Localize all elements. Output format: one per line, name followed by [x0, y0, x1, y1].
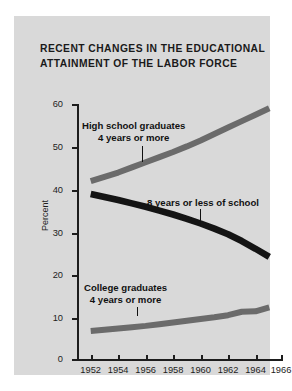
x-tick-label-1952: 1952	[80, 365, 101, 375]
y-axis-title: Percent	[40, 200, 50, 231]
annotation-eight-years-line-1: 8 years or less of school	[147, 197, 259, 209]
x-tick-label-1964: 1964	[245, 365, 266, 375]
annotation-eight-years: 8 years or less of school	[147, 197, 259, 209]
annotation-college-leader	[137, 307, 138, 316]
series-line-college	[91, 307, 270, 331]
annotation-high-school-line-2: 4 years or more	[82, 132, 185, 144]
y-tick-label-50: 50	[53, 142, 63, 152]
chart-title-line-2: attainment of the labor force	[40, 57, 266, 72]
annotation-high-school: High school graduates 4 years or more	[82, 120, 185, 143]
x-tick-label-1954: 1954	[108, 365, 129, 375]
y-tick-label-10: 10	[53, 313, 63, 323]
annotation-college-line-1: College graduates	[84, 282, 167, 294]
chart-figure-panel: Recent changes in the educational attain…	[14, 16, 270, 375]
x-tick-label-1966: 1966	[271, 365, 284, 375]
chart-title: Recent changes in the educational attain…	[40, 42, 266, 71]
y-tick-label-40: 40	[53, 185, 63, 195]
chart-title-line-1: Recent changes in the educational	[40, 42, 266, 57]
y-tick-label-60: 60	[53, 99, 63, 109]
y-tick-label-30: 30	[53, 228, 63, 238]
annotation-high-school-line-1: High school graduates	[82, 120, 185, 132]
annotation-eight-years-leader	[200, 209, 201, 226]
x-tick-label-1956: 1956	[135, 365, 156, 375]
x-tick-label-1960: 1960	[190, 365, 211, 375]
y-tick-label-0: 0	[58, 354, 63, 364]
x-tick-label-1958: 1958	[163, 365, 184, 375]
annotation-college-line-2: 4 years or more	[84, 294, 167, 306]
y-tick-label-20: 20	[53, 270, 63, 280]
annotation-high-school-leader	[142, 146, 143, 162]
annotation-college: College graduates 4 years or more	[84, 282, 167, 305]
x-tick-label-1962: 1962	[218, 365, 239, 375]
